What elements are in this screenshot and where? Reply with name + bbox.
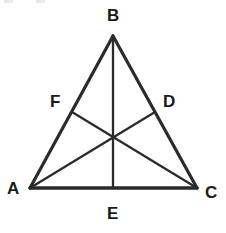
scan-artifact-left xyxy=(4,0,13,3)
vertex-label-a: A xyxy=(7,180,19,197)
vertex-label-b: B xyxy=(107,7,119,24)
triangle-medians xyxy=(30,36,197,188)
vertex-label-c: C xyxy=(205,184,217,201)
point-label-e: E xyxy=(107,205,118,222)
geometry-figure: B A C F D E xyxy=(0,0,226,233)
triangle-diagram-svg xyxy=(0,0,226,233)
point-label-d: D xyxy=(163,93,175,110)
scan-artifact-right xyxy=(36,0,45,3)
point-label-f: F xyxy=(50,93,60,110)
